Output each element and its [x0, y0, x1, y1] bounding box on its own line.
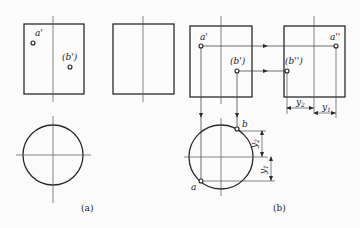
point-b-prime-label: (b')	[230, 56, 246, 66]
point-b-double-prime-marker	[285, 69, 289, 73]
point-a-label: a	[191, 182, 196, 192]
dim-y1-label-top: y1	[258, 165, 269, 175]
figure-a-top-view	[16, 116, 91, 203]
point-b-double-prime-label: (b'')	[285, 56, 303, 66]
diagram-svg: a' (b') (a)	[0, 0, 360, 228]
point-a-double-prime-marker	[334, 44, 338, 48]
figure-a-side-view	[113, 16, 174, 102]
point-a-marker	[199, 179, 203, 183]
point-a-prime-marker	[199, 44, 203, 48]
figure-b-top-view: a b y2 y1	[184, 118, 275, 196]
point-a-prime-label: a'	[200, 32, 208, 42]
dim-y1-label-side: y1	[321, 102, 331, 113]
point-a-prime-marker	[31, 41, 35, 45]
figure-a-front-view: a' (b')	[24, 16, 84, 102]
point-a-prime-label: a'	[35, 28, 43, 38]
side-view-dimensions: y2 y1	[287, 97, 336, 113]
dim-y2-label-top: y2	[249, 139, 260, 149]
point-b-prime-marker	[68, 65, 72, 69]
projection-lines-vertical	[201, 46, 237, 181]
point-b-marker	[235, 127, 239, 131]
three-view-projection-diagram: a' (b') (a)	[0, 0, 360, 228]
point-b-prime-label: (b')	[62, 52, 78, 62]
point-b-prime-marker	[235, 69, 239, 73]
figure-a: a' (b') (a)	[16, 16, 174, 213]
point-a-double-prime-label: a''	[330, 32, 340, 42]
figure-a-caption: (a)	[81, 203, 93, 213]
dim-y2-label-side: y2	[295, 97, 305, 108]
figure-b-caption: (b)	[273, 203, 286, 213]
point-b-label: b	[242, 119, 248, 129]
figure-b: a' (b') a'' (b'') y2 y1 a b	[184, 16, 345, 213]
